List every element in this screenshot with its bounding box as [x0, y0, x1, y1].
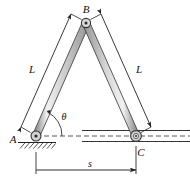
label-C: C: [137, 146, 145, 158]
ground-support-A: [18, 143, 56, 149]
label-L-right: L: [135, 63, 142, 75]
link-BC-body: [86, 23, 136, 136]
link-BC-edge-right: [89, 22, 139, 135]
dimension-s: [36, 146, 136, 174]
link-BC-edge-left: [83, 25, 133, 138]
label-s: s: [88, 158, 92, 169]
joint-C-center: [135, 135, 137, 137]
mechanism-figure: B A C L L θ s: [0, 0, 190, 190]
joint-A-center: [34, 134, 37, 137]
dimension-L-left-ext-A: [21, 127, 31, 133]
label-B: B: [83, 3, 90, 15]
link-AB-edge-left: [33, 22, 83, 135]
label-theta: θ: [62, 111, 67, 122]
dimension-L-right-ext-C: [141, 127, 151, 133]
label-L-left: L: [28, 63, 35, 75]
joint-B-center: [85, 22, 88, 25]
dimension-L-right-ext-B: [91, 14, 102, 20]
joint-C-roller: [131, 131, 142, 142]
ground-hatching: [20, 143, 56, 149]
angle-arc: [48, 112, 63, 136]
link-BC: [83, 22, 140, 138]
diagram-canvas: B A C L L θ s: [0, 0, 190, 190]
joint-A-pin: [31, 131, 41, 141]
joint-B-pin: [81, 18, 90, 27]
dimension-L-left-ext-B: [71, 14, 82, 20]
label-A: A: [9, 133, 17, 145]
